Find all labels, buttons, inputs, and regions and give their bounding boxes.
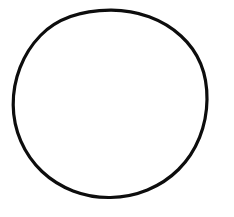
- circle-figure: [0, 0, 234, 217]
- drawing-canvas: [0, 0, 234, 217]
- canvas-background: [0, 0, 234, 217]
